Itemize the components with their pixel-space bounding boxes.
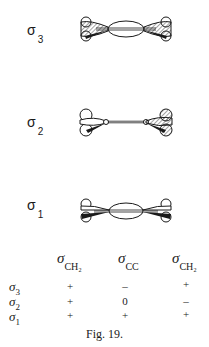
header-subscript: CH₂ bbox=[64, 261, 81, 272]
table-cell: – bbox=[176, 295, 196, 307]
table-cell: + bbox=[60, 309, 80, 321]
orbital-index: 1 bbox=[38, 209, 44, 220]
row-label-sigma1: σ1 bbox=[9, 309, 20, 327]
header-subscript: CC bbox=[125, 261, 138, 272]
orbital-index: 2 bbox=[38, 126, 44, 137]
orbital-label-sigma2: σ2 bbox=[27, 114, 43, 133]
table-cell: 0 bbox=[115, 295, 135, 307]
table-cell: + bbox=[60, 295, 80, 307]
orbital-symbol: σ bbox=[27, 22, 36, 38]
table-cell: + bbox=[60, 280, 80, 292]
orbital-symbol: σ bbox=[27, 197, 36, 213]
table-cell: + bbox=[115, 309, 135, 321]
table-cell: + bbox=[176, 308, 196, 320]
sigma3-orbital-drawing bbox=[76, 14, 176, 44]
figure-caption: Fig. 19. bbox=[0, 327, 209, 342]
table-cell: + bbox=[176, 278, 196, 290]
column-header-ch2-right: σCH₂ bbox=[172, 250, 197, 269]
orbital-symbol: σ bbox=[27, 114, 36, 130]
orbital-label-sigma3: σ3 bbox=[27, 22, 43, 41]
table-cell: – bbox=[115, 280, 135, 292]
row-subscript: 1 bbox=[15, 317, 20, 327]
sigma1-orbital-drawing bbox=[76, 196, 176, 226]
header-subscript: CH₂ bbox=[179, 261, 196, 272]
orbital-index: 3 bbox=[38, 34, 44, 45]
column-header-cc: σCC bbox=[118, 250, 139, 269]
orbital-label-sigma1: σ1 bbox=[27, 197, 43, 216]
column-header-ch2-left: σCH₂ bbox=[57, 250, 82, 269]
sigma2-orbital-drawing bbox=[76, 108, 176, 138]
